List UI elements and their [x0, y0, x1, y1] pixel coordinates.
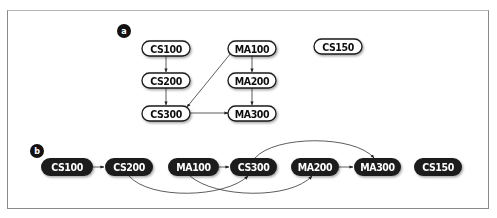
panel-b-badge: b [30, 144, 44, 158]
edge-b-ma100-ma200 [190, 176, 312, 193]
edge-b-cs300-ma300 [255, 141, 374, 158]
svg-text:CS150: CS150 [422, 161, 454, 173]
node-b-ma200[interactable]: MA200 [291, 158, 339, 176]
svg-text:MA200: MA200 [235, 75, 270, 87]
svg-text:CS300: CS300 [238, 161, 270, 173]
svg-text:CS200: CS200 [113, 161, 145, 173]
svg-text:MA200: MA200 [298, 161, 333, 173]
panel-a: a CS100 CS200 CS300 MA100 [117, 24, 362, 121]
svg-text:CS300: CS300 [150, 108, 182, 120]
edge-ma100-cs300 [187, 53, 231, 107]
panel-b: b CS100 CS200 MA100 CS300 [30, 141, 462, 194]
svg-text:b: b [34, 147, 40, 156]
node-a-cs300[interactable]: CS300 [142, 106, 190, 121]
svg-text:CS150: CS150 [322, 41, 354, 53]
svg-text:CS100: CS100 [150, 43, 182, 55]
svg-text:CS100: CS100 [51, 161, 83, 173]
svg-text:MA100: MA100 [176, 161, 211, 173]
node-a-ma300[interactable]: MA300 [228, 106, 276, 121]
node-b-cs200[interactable]: CS200 [105, 158, 153, 176]
node-a-cs200[interactable]: CS200 [142, 73, 190, 88]
svg-text:MA300: MA300 [360, 161, 395, 173]
node-a-cs100[interactable]: CS100 [142, 41, 190, 56]
node-b-cs300[interactable]: CS300 [230, 158, 277, 176]
panel-a-badge: a [117, 24, 131, 38]
svg-text:MA100: MA100 [235, 43, 270, 55]
node-b-cs100[interactable]: CS100 [41, 158, 93, 176]
edge-b-cs200-cs300 [129, 176, 248, 193]
svg-text:MA300: MA300 [235, 108, 270, 120]
node-a-cs150[interactable]: CS150 [314, 39, 362, 54]
node-a-ma200[interactable]: MA200 [228, 73, 276, 88]
node-b-ma100[interactable]: MA100 [168, 158, 219, 176]
node-b-cs150[interactable]: CS150 [414, 158, 462, 176]
node-b-ma300[interactable]: MA300 [354, 158, 401, 176]
svg-text:CS200: CS200 [150, 75, 182, 87]
node-a-ma100[interactable]: MA100 [228, 41, 276, 56]
diagram-canvas: a CS100 CS200 CS300 MA100 [0, 0, 497, 218]
svg-text:a: a [121, 27, 126, 36]
